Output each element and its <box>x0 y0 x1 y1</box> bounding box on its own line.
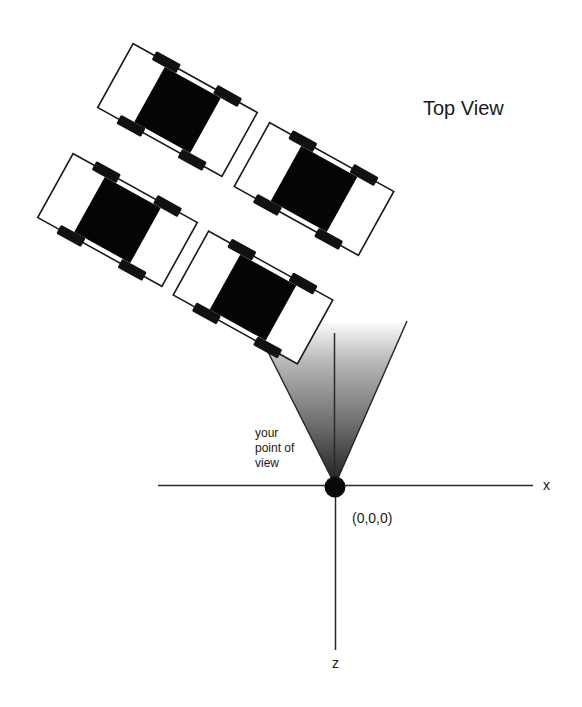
viewpoint-label-line-2: point of <box>255 441 295 455</box>
viewpoint-label-line-1: your <box>255 426 278 440</box>
viewpoint-label-line-3: view <box>255 456 279 470</box>
car-3 <box>35 149 199 290</box>
top-view-diagram: Top View your point of view (0,0,0) x z <box>0 0 582 707</box>
z-axis-label: z <box>332 655 339 671</box>
diagram-title: Top View <box>423 97 504 119</box>
origin-dot <box>325 477 346 498</box>
car-1 <box>95 39 259 180</box>
car-2 <box>232 118 396 259</box>
origin-label: (0,0,0) <box>352 510 392 526</box>
x-axis-label: x <box>543 477 550 493</box>
